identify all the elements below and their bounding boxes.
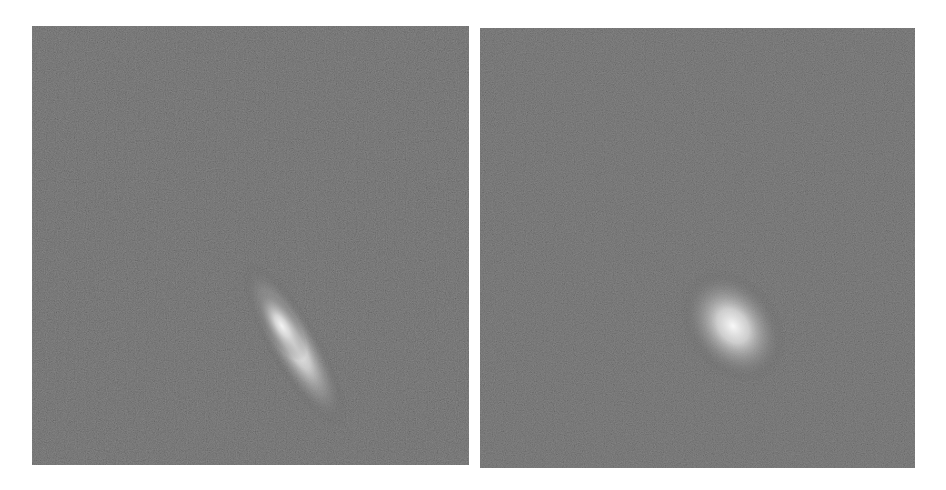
noise-field-right bbox=[480, 28, 915, 468]
noise-field-left bbox=[32, 26, 469, 465]
image-panel-left bbox=[32, 26, 469, 465]
image-panel-right bbox=[480, 28, 915, 468]
